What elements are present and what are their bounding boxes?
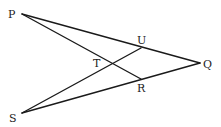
segment-pr — [22, 14, 141, 79]
point-label-r: R — [137, 82, 146, 95]
segment-pq — [22, 14, 200, 63]
segment-sq — [22, 63, 200, 113]
segment-su — [22, 48, 141, 113]
labels-group: P Q S U R T — [8, 8, 212, 125]
point-label-t: T — [93, 57, 101, 70]
point-label-s: S — [9, 112, 17, 125]
point-label-p: P — [8, 8, 16, 21]
point-label-q: Q — [203, 58, 212, 71]
geometry-diagram: P Q S U R T — [0, 0, 221, 127]
segments-group — [22, 14, 200, 113]
point-label-u: U — [137, 34, 146, 47]
